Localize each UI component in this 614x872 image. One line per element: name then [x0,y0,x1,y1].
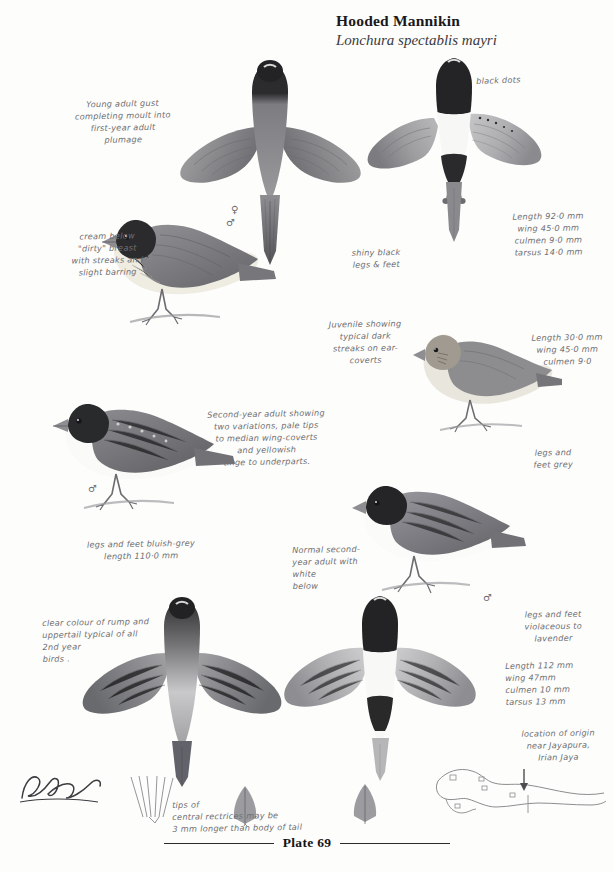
plate-heading: Hooded Mannikin Lonchura spectablis mayr… [336,12,596,49]
annotation-rump-colour: clear colour of rump and uppertail typic… [42,615,195,665]
annotation-normal-second-year: Normal second- year adult with white bel… [292,543,397,592]
map-sketch-new-guinea [432,755,607,825]
annotation-rectrices: tips of central rectrices may be 3 mm lo… [172,796,383,835]
artist-signature [18,768,104,810]
annotation-cream-below: cream below "dirty" breast with streaks … [48,230,167,280]
annotation-young-adult: Young adult gust completing moult into f… [50,97,196,148]
symbol-male-perched-young: ♂ [226,217,235,228]
common-name: Hooded Mannikin [336,12,596,30]
annotation-second-year: Second-year adult showing two variations… [190,407,343,469]
plate-number: Plate 69 [283,835,332,851]
symbol-male-second-year: ♂ [88,483,97,494]
bird-spread-underside-lower [282,592,482,782]
annotation-measurements-juvenile: Length 30·0 mm wing 45·0 mm culmen 9·0 [522,331,613,368]
bird-juvenile-perched [412,305,562,440]
annotation-shiny-black-legs: shiny black legs & feet [336,247,416,272]
symbol-female-spread: ♀ [231,204,238,215]
annotation-map-location: location of origin near Jayapura, Irian … [508,727,609,764]
annotation-legs-feet-grey: legs and feet grey [517,447,589,472]
annotation-juvenile: Juvenile showing typical dark streaks on… [305,318,426,368]
annotation-legs-bluish-grey: legs and feet bluish-grey length 110·0 m… [66,537,216,563]
symbol-male-normal: ♂ [483,592,492,603]
scientific-name: Lonchura spectablis mayri [336,31,596,49]
annotation-measurements-male: Length 112 mm wing 47mm culmen 10 mm tar… [505,659,606,708]
annotation-black-dots: black dots [476,74,546,88]
annotation-legs-violaceous: legs and feet violaceous to lavender [502,608,605,645]
footer-rule-right [340,843,450,844]
annotation-measurements-female: Length 92·0 mm wing 45·0 mm culmen 9·0 m… [492,210,605,260]
footer-rule-left [164,843,274,844]
plate-footer: Plate 69 [0,832,614,854]
plate-page: Hooded Mannikin Lonchura spectablis mayr… [0,0,614,872]
